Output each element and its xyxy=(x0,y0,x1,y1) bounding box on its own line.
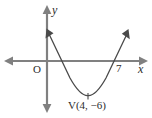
y-axis-up-arrowhead xyxy=(43,5,52,14)
parabola-left-arrowhead xyxy=(46,29,54,39)
x-axis-label: x xyxy=(138,63,143,75)
origin-label: O xyxy=(33,64,41,75)
x-axis xyxy=(4,57,148,66)
x-axis-left-arrowhead xyxy=(4,57,13,66)
parabola-path xyxy=(50,35,127,96)
vertex-label: V(4, −6) xyxy=(68,100,106,111)
y-axis xyxy=(43,5,52,113)
parabola-figure: y x O 7 V(4, −6) xyxy=(0,0,152,118)
x-intercept-label-7: 7 xyxy=(116,63,122,74)
y-axis-down-arrowhead xyxy=(43,104,52,113)
y-axis-label: y xyxy=(52,4,57,16)
